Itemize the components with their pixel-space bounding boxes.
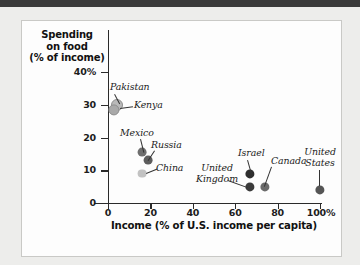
data-point-china	[137, 169, 146, 178]
x-tick-label-20: 20	[130, 208, 170, 218]
y-axis-title-line-1: Spending	[28, 29, 106, 41]
x-tick-label-60: 60	[215, 208, 255, 218]
annotation-united-states: United States	[294, 147, 346, 168]
annotation-kenya: Kenya	[134, 100, 163, 111]
data-point-united-states	[315, 185, 324, 194]
annotation-israel: Israel	[238, 148, 265, 159]
x-tick-label-80: 80	[258, 208, 298, 218]
annotation-china: China	[156, 163, 183, 174]
annotation-mexico: Mexico	[120, 128, 154, 139]
x-tick-label-100: 100%	[301, 208, 341, 218]
y-axis-title: Spending on food (% of income)	[28, 29, 106, 64]
x-axis-line	[94, 203, 322, 204]
annotation-united-kingdom: United Kingdom	[189, 163, 245, 184]
y-tick-20	[101, 138, 108, 139]
y-tick-label-20: 20	[22, 133, 96, 143]
x-tick-label-40: 40	[173, 208, 213, 218]
y-axis-title-line-3: (% of income)	[28, 52, 106, 64]
x-axis-title: Income (% of U.S. income per capita)	[94, 220, 334, 232]
y-tick-40	[101, 72, 108, 73]
annotation-united-states-line-1: United	[294, 147, 346, 158]
y-tick-label-10: 10	[22, 165, 96, 175]
annotation-united-kingdom-line-1: United	[189, 163, 245, 174]
leader-line-united-states	[319, 170, 320, 186]
y-tick-30	[101, 105, 108, 106]
annotation-pakistan: Pakistan	[110, 82, 150, 93]
scatter-plot: 40% 30 20 10 0 0 20 40 60 80 100% Spendi…	[0, 0, 360, 265]
annotation-united-states-line-2: States	[294, 158, 346, 169]
data-point-kenya	[108, 104, 119, 115]
y-axis-line	[108, 30, 109, 204]
y-tick-label-0: 0	[22, 198, 96, 208]
figure-root: 40% 30 20 10 0 0 20 40 60 80 100% Spendi…	[0, 0, 360, 265]
x-tick-label-0: 0	[88, 208, 128, 218]
y-tick-label-30: 30	[22, 100, 96, 110]
y-tick-10	[101, 170, 108, 171]
annotation-russia: Russia	[151, 140, 182, 151]
y-tick-label-40: 40%	[22, 67, 96, 77]
y-axis-title-line-2: on food	[28, 41, 106, 53]
